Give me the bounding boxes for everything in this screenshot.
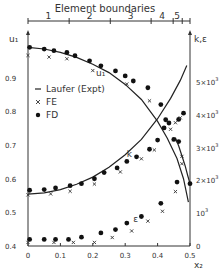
fe-point (93, 182, 96, 185)
legend: Laufer (Expt)FEFD (35, 84, 105, 120)
fd-point (27, 188, 32, 193)
fd-point (162, 126, 167, 131)
fe-point (65, 57, 68, 60)
fd-point (102, 170, 107, 175)
fe-point (140, 157, 143, 160)
fd-point (27, 45, 32, 50)
fe-point (91, 69, 94, 72)
fd-point (79, 181, 84, 186)
fe-point (169, 128, 172, 131)
x-axis-title: x₂ (194, 260, 203, 270)
right-tick-label: 5×103 (196, 76, 218, 87)
right-tick-label: 3×103 (196, 142, 218, 153)
chart: Element boundaries 12345 u₁ k,ε x₂ 0.90.… (0, 0, 224, 274)
x-tick-label: 0.5 (184, 252, 195, 260)
curve-label: k (127, 149, 133, 159)
legend-label: FE (46, 97, 57, 107)
fd-point (131, 79, 136, 84)
fd-point (124, 221, 129, 226)
x-tick-label: 0.1 (55, 252, 66, 260)
fd-point (134, 154, 139, 159)
fd-point (171, 137, 176, 142)
x-tick-label: 0.4 (152, 252, 164, 260)
fd-point (145, 85, 150, 90)
element-label: 5 (174, 11, 180, 21)
x-tick-label: 0.3 (120, 252, 131, 260)
fd-point (79, 235, 84, 240)
fd-point (42, 47, 47, 52)
legend-cross-icon (36, 100, 40, 104)
element-label: 3 (128, 11, 134, 21)
element-label: 1 (46, 11, 52, 21)
left-axis-title: u₁ (9, 34, 19, 44)
left-tick-label: 0.5 (5, 209, 16, 217)
fd-point (113, 227, 118, 232)
left-tick-label: 0.9 (5, 75, 16, 83)
right-tick-label: 2×103 (196, 174, 218, 185)
top-axis-title: Element boundaries (55, 3, 155, 14)
element-label: 2 (87, 11, 93, 21)
fe-point (148, 99, 151, 102)
fe-point (130, 229, 133, 232)
right-tick-label: 0 (196, 243, 200, 251)
fd-point (175, 180, 180, 185)
fd-point (99, 230, 104, 235)
fe-point (153, 148, 156, 151)
fe-point (146, 220, 149, 223)
left-axis-arrow-icon (26, 30, 30, 35)
fd-point (155, 138, 160, 143)
fe-point (111, 236, 114, 239)
fe-point (119, 170, 122, 173)
right-axis-title: k,ε (194, 34, 207, 44)
fd-point (158, 102, 163, 107)
top-axis: Element boundaries 12345 (28, 3, 190, 24)
fd-point (158, 201, 163, 206)
left-axis-ticks: 0.90.80.70.60.50.4 (5, 75, 17, 251)
x-tick-label: 0 (26, 252, 30, 260)
fe-point (47, 55, 50, 58)
right-axis-ticks: 5×1034×1033×1032×1031030 (196, 76, 218, 251)
legend-label: FD (46, 110, 58, 120)
expt-curve (28, 47, 188, 202)
fd-point (87, 58, 92, 63)
fe-point (72, 241, 75, 244)
data-series (26, 45, 192, 244)
left-tick-label: 0.7 (5, 142, 16, 150)
fd-point (115, 166, 120, 171)
fe-point (93, 241, 96, 244)
fe-point (49, 192, 52, 195)
fe-point (69, 190, 72, 193)
legend-dot-icon (36, 113, 40, 117)
curve-label: ε (133, 214, 138, 224)
left-tick-label: 0.8 (5, 108, 16, 116)
fe-point (161, 210, 164, 213)
fd-point (73, 53, 78, 58)
left-tick-label: 0.4 (5, 243, 17, 251)
fd-point (92, 176, 97, 181)
fd-point (113, 69, 118, 74)
element-label: 4 (159, 11, 165, 21)
fd-point (68, 183, 73, 188)
fd-point (181, 111, 186, 116)
fd-point (123, 74, 128, 79)
legend-label: Laufer (Expt) (46, 84, 105, 94)
right-tick-label: 103 (196, 207, 208, 218)
fe-point (180, 162, 183, 165)
fe-point (52, 241, 55, 244)
fd-point (66, 237, 71, 242)
fd-point (52, 48, 57, 53)
fd-point (124, 159, 129, 164)
fd-point (42, 237, 47, 242)
left-tick-label: 0.6 (5, 176, 17, 184)
right-tick-label: 4×103 (196, 109, 218, 120)
fd-point (139, 214, 144, 219)
fd-point (167, 121, 172, 126)
fe-point (174, 190, 177, 193)
curve-label: u₁ (96, 68, 106, 78)
fd-point (64, 50, 69, 55)
x-tick-label: 0.2 (87, 252, 98, 260)
fd-point (53, 186, 58, 191)
right-axis-arrow-icon (188, 30, 192, 35)
fe-point (174, 121, 177, 124)
fd-point (147, 147, 152, 152)
